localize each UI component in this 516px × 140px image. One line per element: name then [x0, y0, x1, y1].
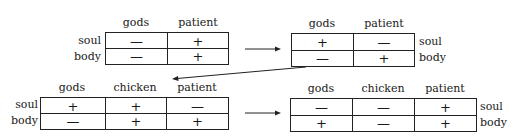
- arrow-right-icon: [245, 47, 281, 52]
- arrows-layer: [0, 0, 516, 140]
- arrow-right-icon: [245, 111, 281, 116]
- arrow-diagonal-icon: [172, 67, 306, 81]
- diagram-canvas: gods patient soul body — + — + gods pati…: [0, 0, 516, 140]
